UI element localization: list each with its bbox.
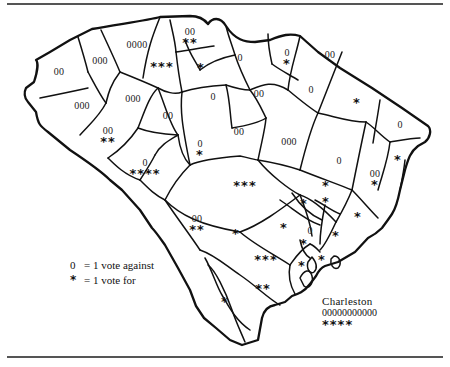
bottom-rule — [7, 356, 443, 358]
county-label: * — [197, 62, 205, 74]
for-label: = 1 vote for — [84, 273, 136, 288]
county-label: 0000 — [127, 39, 148, 50]
county-label: * — [318, 254, 326, 266]
county-label: * — [280, 222, 288, 234]
county-label: 000 — [125, 93, 141, 104]
county-label: * — [332, 230, 340, 242]
county-label: *** — [254, 254, 277, 266]
county-label: 0 — [397, 119, 402, 130]
charleston-for: **** — [322, 319, 377, 330]
county-label: 00 — [163, 110, 173, 121]
county-label: 00* — [370, 168, 380, 191]
county-label: ** — [255, 283, 271, 295]
county-label: *** — [150, 61, 173, 73]
county-label: * — [221, 296, 229, 308]
county-label: 00 — [254, 88, 264, 99]
county-label: * — [353, 97, 361, 109]
county-label: 0 — [308, 84, 313, 95]
legend-row-against: 0 = 1 vote against — [70, 258, 154, 273]
county-label: 00 — [234, 126, 244, 137]
county-label: * — [300, 238, 308, 250]
county-label: 0* — [196, 138, 204, 161]
county-label: * — [394, 154, 402, 166]
charleston-annotation: Charleston 00000000000 **** — [322, 296, 377, 330]
county-label: 0 — [307, 225, 312, 236]
county-label: * — [300, 198, 308, 210]
south-carolina-map — [0, 0, 450, 367]
county-label: * — [232, 228, 240, 240]
county-label: 0 — [210, 91, 215, 102]
county-label: * — [354, 211, 362, 223]
for-symbol: * — [70, 273, 84, 288]
county-label: 00** — [182, 26, 198, 49]
county-label: 000 — [281, 136, 297, 147]
county-label: *** — [233, 180, 256, 192]
county-label: 00** — [189, 213, 205, 236]
county-label: 000 — [74, 100, 90, 111]
county-label: 000 — [92, 55, 108, 66]
county-label: 00** — [100, 125, 116, 148]
county-label: * — [298, 260, 306, 272]
county-label: 00 — [54, 66, 64, 77]
map-legend: 0 = 1 vote against * = 1 vote for — [70, 258, 154, 288]
county-label: 00 — [325, 49, 335, 60]
against-label: = 1 vote against — [84, 258, 154, 273]
charleston-name: Charleston — [322, 296, 377, 307]
against-symbol: 0 — [70, 258, 84, 273]
county-label: * — [322, 196, 330, 208]
county-label: 0 — [237, 52, 242, 63]
county-label: 0 — [336, 155, 341, 166]
county-label: * — [322, 180, 330, 192]
county-label: 0* — [283, 47, 291, 70]
county-label: 0**** — [129, 157, 160, 180]
legend-row-for: * = 1 vote for — [70, 273, 154, 288]
